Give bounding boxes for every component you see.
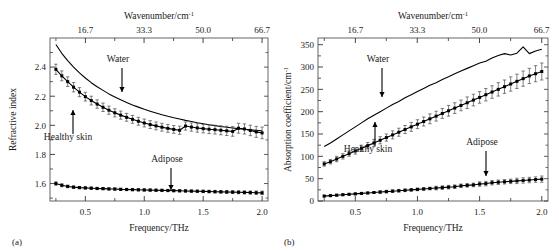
data-marker	[66, 185, 69, 188]
y-tick-label: 300	[301, 62, 315, 72]
data-marker	[410, 125, 413, 128]
data-marker	[196, 126, 199, 129]
data-marker	[478, 183, 481, 186]
annotation-label-water: Water	[367, 54, 390, 64]
data-marker	[391, 133, 394, 136]
data-marker	[202, 190, 205, 193]
y-tick-label: 0	[310, 196, 315, 206]
data-marker	[522, 77, 525, 80]
data-marker	[428, 117, 431, 120]
top-tick-label: 50.0	[472, 25, 488, 35]
annotation-arrow-healthy-skin	[70, 110, 75, 134]
data-marker	[102, 187, 105, 190]
x-tick-label: 0.5	[350, 207, 362, 217]
data-marker	[131, 188, 134, 191]
data-marker	[435, 187, 438, 190]
data-marker	[202, 127, 205, 130]
data-marker	[484, 182, 487, 185]
top-tick-label: 33.3	[409, 25, 425, 35]
data-marker	[509, 82, 512, 85]
data-marker	[219, 190, 222, 193]
data-marker	[441, 112, 444, 115]
data-marker	[190, 126, 193, 129]
series-water	[56, 45, 262, 131]
data-marker	[422, 120, 425, 123]
data-marker	[102, 106, 105, 109]
data-marker	[509, 180, 512, 183]
data-marker	[96, 103, 99, 106]
data-marker	[503, 85, 506, 88]
x-tick-label: 1.0	[139, 207, 151, 217]
data-marker	[237, 191, 240, 194]
data-marker	[184, 125, 187, 128]
data-marker	[149, 123, 152, 126]
data-marker	[225, 190, 228, 193]
y-axis-label: Refractive index	[8, 88, 18, 151]
data-marker	[231, 191, 234, 194]
data-marker	[459, 184, 462, 187]
series-healthy-skin	[54, 64, 264, 139]
data-marker	[422, 187, 425, 190]
data-marker	[72, 186, 75, 189]
data-marker	[72, 86, 75, 89]
data-marker	[360, 192, 363, 195]
data-marker	[160, 126, 163, 129]
data-marker	[503, 180, 506, 183]
top-tick-label: 33.3	[136, 25, 152, 35]
annotation-label-water: Water	[107, 54, 130, 64]
data-marker	[184, 189, 187, 192]
data-marker	[366, 191, 369, 194]
top-tick-label: 16.7	[78, 25, 94, 35]
data-marker	[459, 104, 462, 107]
data-marker	[213, 128, 216, 131]
panel-b: 0.51.01.52.016.733.350.066.7Wavenumber/c…	[280, 0, 559, 252]
data-marker	[348, 193, 351, 196]
data-marker	[196, 190, 199, 193]
data-marker	[143, 121, 146, 124]
data-marker	[54, 68, 57, 71]
annotation-label-healthy-skin: Healthy skin	[44, 132, 93, 142]
data-marker	[137, 188, 140, 191]
panel-a: 0.51.01.52.016.733.350.066.7Wavenumber/c…	[0, 0, 279, 252]
data-marker	[255, 130, 258, 133]
data-marker	[84, 186, 87, 189]
data-marker	[472, 99, 475, 102]
data-marker	[428, 187, 431, 190]
data-marker	[90, 99, 93, 102]
data-marker	[341, 193, 344, 196]
top-tick-label: 50.0	[195, 25, 211, 35]
top-axis-title: Wavenumber/cm-1	[124, 10, 194, 21]
series-adipose	[323, 176, 544, 198]
data-marker	[515, 179, 518, 182]
data-marker	[113, 188, 116, 191]
data-marker	[96, 187, 99, 190]
data-marker	[131, 118, 134, 121]
data-marker	[78, 186, 81, 189]
data-marker	[172, 189, 175, 192]
panel-letter-a: (a)	[12, 237, 22, 247]
data-marker	[261, 191, 264, 194]
data-marker	[528, 179, 531, 182]
panel-letter-b: (b)	[284, 237, 295, 247]
y-tick-label: 100	[301, 152, 315, 162]
data-marker	[119, 114, 122, 117]
x-tick-label: 2.0	[256, 207, 268, 217]
data-marker	[208, 128, 211, 131]
data-marker	[329, 160, 332, 163]
data-marker	[113, 111, 116, 114]
data-marker	[385, 190, 388, 193]
series-adipose	[54, 182, 264, 195]
data-line	[324, 179, 542, 196]
data-marker	[237, 127, 240, 130]
data-marker	[60, 74, 63, 77]
data-marker	[107, 187, 110, 190]
data-marker	[137, 120, 140, 123]
annotation-arrow-water	[379, 68, 384, 97]
annotation-arrow-adipose	[483, 151, 488, 176]
data-marker	[60, 184, 63, 187]
data-marker	[397, 189, 400, 192]
data-marker	[341, 155, 344, 158]
data-marker	[219, 129, 222, 132]
data-marker	[208, 190, 211, 193]
data-marker	[323, 162, 326, 165]
